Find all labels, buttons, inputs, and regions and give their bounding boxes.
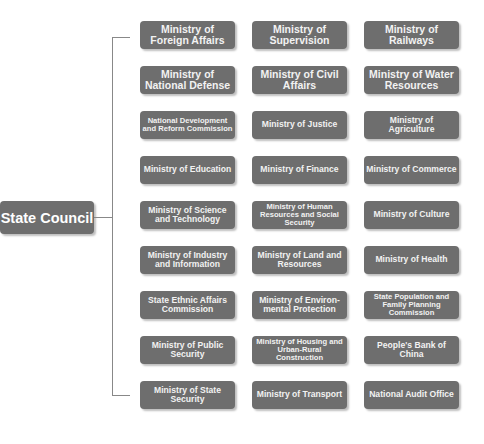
ministry-node-label: National Development and Reform Commissi… xyxy=(142,117,233,133)
ministry-node: Ministry of Civil Affairs xyxy=(252,66,347,94)
ministry-node: Ministry of Housing and Urban-Rural Cons… xyxy=(252,336,347,364)
ministry-node-label: Ministry of Housing and Urban-Rural Cons… xyxy=(254,338,345,362)
ministry-node: Ministry of Water Resources xyxy=(364,66,459,94)
ministry-node-label: Ministry of Justice xyxy=(262,120,337,129)
ministry-node: Ministry of Agriculture xyxy=(364,111,459,139)
ministry-node: Ministry of Transport xyxy=(252,381,347,409)
ministry-node: State Ethnic Affairs Commission xyxy=(140,291,235,319)
ministry-node-label: Ministry of Railways xyxy=(366,24,457,46)
root-node-state-council: State Council xyxy=(0,201,94,234)
ministry-node: Ministry of Land and Resources xyxy=(252,246,347,274)
ministry-node: Ministry of Human Resources and Social S… xyxy=(252,201,347,229)
ministry-node: Ministry of Finance xyxy=(252,156,347,184)
ministry-node: Ministry of Environ-mental Protection xyxy=(252,291,347,319)
ministry-node: State Population and Family Planning Com… xyxy=(364,291,459,319)
bottom-branch-line xyxy=(112,395,130,396)
ministry-node: Ministry of Science and Technology xyxy=(140,201,235,229)
ministry-node: Ministry of Foreign Affairs xyxy=(140,21,235,49)
ministry-node-label: Ministry of Finance xyxy=(260,165,338,174)
ministry-node-label: Ministry of Transport xyxy=(257,390,342,399)
trunk-line xyxy=(112,37,113,395)
ministry-node-label: Ministry of Human Resources and Social S… xyxy=(254,203,345,227)
ministry-node: Ministry of Public Security xyxy=(140,336,235,364)
ministry-node-label: Ministry of Industry and Information xyxy=(142,251,233,269)
ministry-node: Ministry of Railways xyxy=(364,21,459,49)
root-connector xyxy=(94,217,112,218)
ministry-node: Ministry of Supervision xyxy=(252,21,347,49)
ministry-node-label: Ministry of Science and Technology xyxy=(142,206,233,224)
ministry-node-label: Ministry of Supervision xyxy=(254,24,345,46)
root-node-label: State Council xyxy=(1,210,94,226)
ministry-node-label: Ministry of Culture xyxy=(374,210,450,219)
ministry-node: Ministry of State Security xyxy=(140,381,235,409)
ministry-node: Ministry of Health xyxy=(364,246,459,274)
ministry-node-label: Ministry of Land and Resources xyxy=(254,251,345,269)
ministry-node-label: Ministry of State Security xyxy=(142,386,233,404)
ministry-node-label: State Population and Family Planning Com… xyxy=(366,293,457,317)
ministry-node: National Development and Reform Commissi… xyxy=(140,111,235,139)
ministry-node: Ministry of Commerce xyxy=(364,156,459,184)
ministry-node: Ministry of Industry and Information xyxy=(140,246,235,274)
ministry-node: People's Bank of China xyxy=(364,336,459,364)
ministry-node-label: Ministry of National Defense xyxy=(142,69,233,91)
ministry-node-label: Ministry of Water Resources xyxy=(366,69,457,91)
ministry-node-label: Ministry of Agriculture xyxy=(366,116,457,134)
ministry-node-label: People's Bank of China xyxy=(366,341,457,359)
ministry-node: Ministry of Culture xyxy=(364,201,459,229)
ministry-node: Ministry of Education xyxy=(140,156,235,184)
ministry-node-label: Ministry of Health xyxy=(375,255,447,264)
ministry-node-label: Ministry of Environ-mental Protection xyxy=(254,296,345,314)
ministry-node-label: National Audit Office xyxy=(369,390,454,399)
ministry-node: National Audit Office xyxy=(364,381,459,409)
ministry-node-label: Ministry of Commerce xyxy=(366,165,456,174)
top-branch-line xyxy=(112,37,130,38)
ministry-node: Ministry of National Defense xyxy=(140,66,235,94)
ministry-node-label: Ministry of Foreign Affairs xyxy=(142,24,233,46)
ministry-node-label: State Ethnic Affairs Commission xyxy=(142,296,233,314)
ministry-node-label: Ministry of Public Security xyxy=(142,341,233,359)
ministry-node-label: Ministry of Education xyxy=(144,165,231,174)
ministry-node-label: Ministry of Civil Affairs xyxy=(254,69,345,91)
ministry-node: Ministry of Justice xyxy=(252,111,347,139)
